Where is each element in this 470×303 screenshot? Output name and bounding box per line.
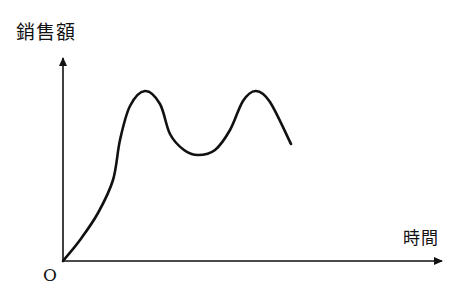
origin-label: O: [43, 267, 57, 284]
sales-time-chart: 銷售額 時間 O: [0, 0, 470, 303]
y-axis-label: 銷售額: [16, 23, 76, 42]
x-axis-label: 時間: [403, 230, 439, 247]
sales-curve: [63, 91, 291, 261]
chart-canvas: [0, 0, 470, 303]
